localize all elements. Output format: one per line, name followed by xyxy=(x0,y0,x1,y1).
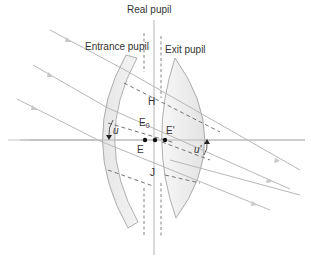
point-E-prime-label: E' xyxy=(166,125,175,136)
real-pupil-label: Real pupil xyxy=(127,4,171,15)
point-E0-label: E0 xyxy=(139,117,150,129)
point-H-label: H xyxy=(148,96,155,107)
point-E xyxy=(143,138,147,142)
entrance-pupil-label: Entrance pupil xyxy=(85,41,149,52)
ray-arrow-icons xyxy=(31,37,72,110)
point-E-label: E xyxy=(137,144,144,155)
meniscus-lens xyxy=(102,55,138,228)
point-E0 xyxy=(153,138,157,142)
angle-u-label: u xyxy=(113,125,119,136)
point-J-label: J xyxy=(150,167,155,178)
angle-u-prime-label: u' xyxy=(194,144,203,155)
point-E-prime xyxy=(163,138,167,142)
exit-pupil-label: Exit pupil xyxy=(165,44,206,55)
optical-pupil-diagram: Real pupil Entrance pupil Exit pupil H J… xyxy=(0,0,313,257)
convex-lens xyxy=(162,58,205,218)
exit-ray-arrow-icons xyxy=(251,158,280,206)
